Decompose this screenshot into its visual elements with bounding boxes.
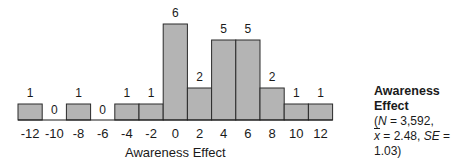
histogram-bar [284,104,308,120]
x-tick-label: 6 [244,126,251,141]
bar-value-label: 1 [148,86,155,100]
bar-value-label: 1 [124,86,131,100]
histogram-bar [163,24,187,120]
x-tick-label: 10 [289,126,303,141]
x-tick-label: -10 [45,126,64,141]
x-tick-label: -2 [145,126,157,141]
histogram-bar [187,88,211,120]
bar-value-label: 2 [196,70,203,84]
x-tick-label: -12 [21,126,40,141]
x-tick-label: -6 [97,126,109,141]
x-tick-label: 12 [313,126,327,141]
x-tick-label: 0 [172,126,179,141]
x-tick-label: -8 [73,126,85,141]
histogram-bar [18,104,42,120]
histogram-bar [139,104,163,120]
histogram-bar [308,104,332,120]
bar-value-label: 6 [172,6,179,20]
histogram-bar [115,104,139,120]
histogram-bar [260,88,284,120]
annotation-n: (N = 3,592, [374,114,469,129]
histogram-bar [66,104,90,120]
chart-annotation: Awareness Effect (N = 3,592, x = 2.48, S… [374,84,469,159]
x-tick-label: 2 [196,126,203,141]
bar-value-label: 0 [51,103,58,117]
x-axis-label: Awareness Effect [125,145,226,160]
bar-value-label: 1 [293,86,300,100]
annotation-stats: x = 2.48, SE = 1.03) [374,129,469,159]
bar-value-label: 2 [269,70,276,84]
bar-value-label: 0 [99,103,106,117]
bar-value-label: 5 [245,22,252,36]
bar-value-label: 1 [75,86,82,100]
histogram-bar [236,40,260,120]
x-tick-label: -4 [121,126,133,141]
x-tick-label: 4 [220,126,227,141]
x-tick-label: 8 [268,126,275,141]
histogram-bar [212,40,236,120]
bar-value-label: 5 [220,22,227,36]
annotation-title: Awareness Effect [374,84,469,114]
bar-value-label: 1 [27,86,34,100]
bar-value-label: 1 [317,86,324,100]
